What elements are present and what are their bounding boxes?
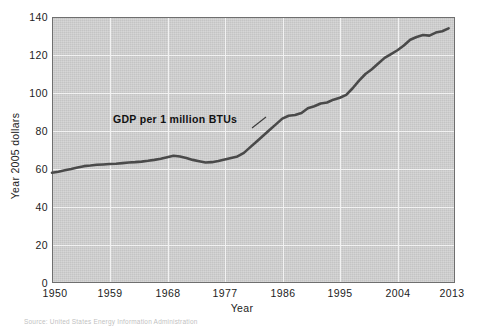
y-axis-title: Year 2005 dollars (9, 96, 21, 216)
gridline-vertical (398, 18, 399, 282)
x-tick-label: 1950 (43, 287, 68, 299)
plot-area (52, 17, 455, 283)
gridline-horizontal (53, 169, 454, 170)
chart-figure: 140 120 100 80 60 40 20 0 GDP per 1 mill… (0, 0, 484, 326)
gridline-vertical (225, 18, 226, 282)
y-tick-label: 140 (8, 11, 48, 23)
x-tick-label: 2013 (440, 287, 465, 299)
gridline-vertical (340, 18, 341, 282)
series-annotation-label: GDP per 1 million BTUs (113, 113, 237, 125)
gridline-horizontal (53, 93, 454, 94)
gridline-horizontal (53, 131, 454, 132)
y-tick-label: 120 (8, 49, 48, 61)
gridline-vertical (168, 18, 169, 282)
x-tick-label: 1995 (328, 287, 353, 299)
x-tick-label: 2004 (386, 287, 411, 299)
x-tick-label: 1959 (98, 287, 123, 299)
gridline-horizontal (53, 55, 454, 56)
gridline-vertical (110, 18, 111, 282)
y-tick-label: 20 (8, 239, 48, 251)
source-note: Source: United States Energy Information… (24, 318, 198, 325)
x-axis-title: Year (0, 302, 484, 314)
x-tick-label: 1986 (271, 287, 296, 299)
x-tick-label: 1968 (156, 287, 181, 299)
x-tick-label: 1977 (213, 287, 238, 299)
gridline-horizontal (53, 207, 454, 208)
gridline-horizontal (53, 245, 454, 246)
gridline-vertical (283, 18, 284, 282)
paper-texture (53, 18, 454, 282)
